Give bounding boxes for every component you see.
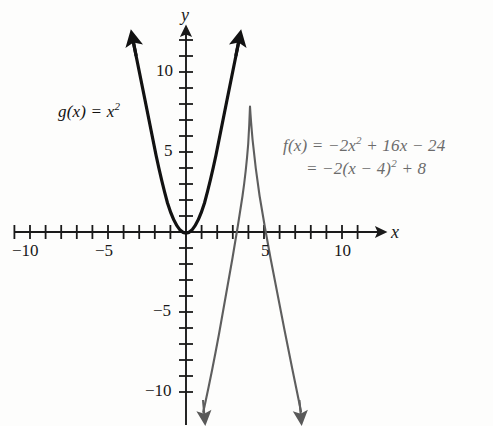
f-function-annotation-line1: f(x) = −2x2 + 16x − 24 [283,137,446,154]
x-tick-label-neg10: −10 [12,242,39,259]
x-axis-label: x [391,223,399,241]
coordinate-plane-svg [0,0,493,426]
f-function-annotation-line2: = −2(x − 4)2 + 8 [306,160,426,177]
y-axis [179,31,193,425]
f-line2-prefix: = −2(x − 4) [306,159,391,178]
f-line1-suffix: + 16x − 24 [362,136,446,155]
y-tick-label-5: 5 [164,142,173,159]
x-tick-label-5: 5 [261,242,270,259]
f-line1-prefix: f(x) = −2x [283,136,356,155]
g-function-exponent: 2 [115,100,121,112]
f-line2-suffix: + 8 [397,159,426,178]
y-tick-label-neg5: −5 [153,302,171,319]
graph-figure: x y −10 −5 5 10 10 5 −5 −10 g(x) = x2 f(… [0,0,493,426]
y-axis-label: y [181,6,189,24]
x-axis [14,225,381,239]
g-function-text: g(x) = x [58,102,115,121]
x-tick-label-10: 10 [334,242,351,259]
g-function-annotation: g(x) = x2 [58,103,120,120]
y-tick-label-neg10: −10 [145,382,172,399]
y-tick-label-10: 10 [156,62,173,79]
x-tick-label-neg5: −5 [95,242,113,259]
